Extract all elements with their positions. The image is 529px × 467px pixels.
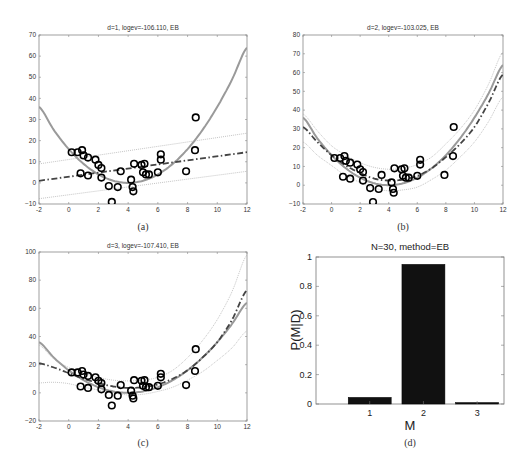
axes-frame (39, 252, 247, 421)
data-point-marker (131, 161, 138, 168)
y-tick-label: 50 (29, 73, 37, 80)
data-point-marker (117, 168, 124, 175)
panel-c: d=3, logev=-107.410, EB -2024681012−2002… (25, 242, 251, 449)
y-tick-label: 0 (307, 399, 312, 409)
x-tick-label: 10 (214, 206, 222, 213)
x-tick-label: 1 (367, 408, 372, 418)
data-point-marker (192, 368, 199, 375)
data-point-marker (85, 385, 92, 392)
data-point-marker (441, 172, 448, 179)
panel-b-caption: (b) (397, 221, 409, 233)
x-tick-label: 2 (358, 206, 362, 213)
x-tick-label: 6 (156, 423, 160, 430)
x-tick-label: 8 (186, 423, 190, 430)
y-tick-label: 100 (25, 248, 36, 255)
data-point-marker (192, 114, 199, 121)
panel-d-ylabel: P(M|D) (288, 310, 303, 351)
x-tick-label: 12 (499, 206, 507, 213)
data-point-marker (114, 392, 121, 399)
data-point-marker (130, 188, 137, 195)
panel-c-title: d=3, logev=-107.410, EB (107, 242, 179, 250)
y-tick-label: 20 (29, 361, 37, 368)
x-tick-label: 2 (97, 206, 101, 213)
panel-b: d=2, logev=-103.025, EB -2024681012−1001… (289, 24, 507, 233)
x-tick-label: 10 (471, 206, 479, 213)
panel-d-xlabel: M (405, 418, 416, 433)
data-point-marker (417, 161, 424, 168)
x-tick-label: 6 (156, 206, 160, 213)
data-point-marker (370, 199, 377, 206)
data-point-marker (117, 382, 124, 389)
data-point-marker (106, 392, 113, 399)
y-tick-label: −10 (25, 200, 36, 207)
data-point-marker (114, 184, 121, 191)
y-tick-label: 40 (29, 333, 37, 340)
panel-c-plot-area: -2024681012−20020406080100 (25, 248, 251, 430)
y-tick-label: 60 (29, 52, 37, 59)
y-tick-label: 70 (29, 31, 37, 38)
x-tick-label: 0 (67, 206, 71, 213)
panel-d-caption: (d) (404, 437, 416, 449)
y-tick-label: 20 (293, 144, 301, 151)
x-tick-label: 0 (67, 423, 71, 430)
panel-a-title: d=1, logev=-106.110, EB (107, 24, 178, 32)
data-point-marker (192, 147, 199, 154)
panel-a: d=1, logev=-106.110, EB -2024681012−1001… (25, 24, 251, 233)
x-tick-label: 6 (415, 206, 419, 213)
data-point-marker (347, 175, 354, 182)
data-point-marker (450, 153, 457, 160)
panel-d-title: N=30, method=EB (371, 241, 449, 252)
figure: d=1, logev=-106.110, EB -2024681012−1001… (0, 0, 529, 467)
x-tick-label: 8 (444, 206, 448, 213)
panel-a-plot-area: -2024681012−10010203040506070 (25, 31, 251, 213)
data-point-marker (450, 124, 457, 131)
x-tick-label: 4 (387, 206, 391, 213)
y-tick-label: 60 (29, 305, 37, 312)
y-tick-label: 10 (293, 163, 301, 170)
y-tick-label: 80 (293, 31, 301, 38)
confidence-band-curve (303, 52, 503, 169)
y-tick-label: 30 (29, 116, 37, 123)
bar-model-2 (402, 264, 445, 404)
x-tick-label: 3 (475, 408, 480, 418)
x-tick-label: 12 (243, 423, 251, 430)
y-tick-label: 60 (293, 69, 301, 76)
y-tick-label: 0 (296, 181, 300, 188)
panel-b-title: d=2, logev=-103.025, EB (367, 24, 439, 32)
y-tick-label: −20 (25, 417, 36, 424)
data-point-marker (183, 382, 190, 389)
y-tick-label: 10 (29, 158, 37, 165)
y-tick-label: 80 (29, 276, 37, 283)
y-tick-label: −10 (289, 200, 300, 207)
x-tick-label: -2 (36, 423, 42, 430)
panel-a-caption: (a) (137, 221, 148, 233)
data-point-marker (340, 173, 347, 180)
y-tick-label: 0 (32, 389, 36, 396)
x-tick-label: 2 (421, 408, 426, 418)
x-tick-label: 4 (126, 423, 130, 430)
y-tick-label: 0 (32, 179, 36, 186)
panel-c-caption: (c) (137, 437, 148, 449)
x-tick-label: -2 (300, 206, 306, 213)
y-tick-label: 30 (293, 125, 301, 132)
x-tick-label: 0 (330, 206, 334, 213)
x-tick-label: -2 (36, 206, 42, 213)
data-point-marker (85, 172, 92, 179)
y-tick-label: 40 (293, 106, 301, 113)
y-tick-label: 50 (293, 88, 301, 95)
posterior-mean-curve (39, 290, 247, 388)
panel-b-plot-area: -2024681012−1001020304050607080 (289, 31, 507, 213)
x-tick-label: 12 (243, 206, 251, 213)
data-point-marker (378, 172, 385, 179)
y-tick-label: 0.2 (299, 370, 312, 380)
x-tick-label: 8 (186, 206, 190, 213)
data-point-marker (106, 183, 113, 190)
data-point-marker (131, 377, 138, 384)
y-tick-label: 70 (293, 50, 301, 57)
axes-frame (39, 35, 247, 204)
data-point-marker (183, 168, 190, 175)
x-tick-label: 2 (97, 423, 101, 430)
panel-d: N=30, method=EB 00.20.40.60.81123 M P(M|… (288, 241, 504, 449)
data-point-marker (109, 402, 116, 409)
data-point-marker (367, 185, 374, 192)
